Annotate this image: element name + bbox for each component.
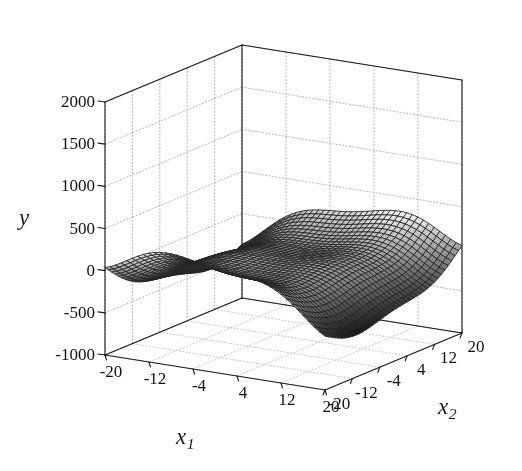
- y-tick-0: 2000: [61, 92, 95, 112]
- x1-axis-label: x1: [176, 424, 195, 453]
- y-tick-4: 0: [87, 261, 96, 281]
- y-tick-2: 1000: [61, 176, 95, 196]
- x2-tick-3: 4: [417, 360, 426, 380]
- y-tick-3: 500: [70, 219, 96, 239]
- x2-tick-4: 12: [440, 348, 457, 368]
- surface-plot-figure: y x1 x2 2000150010005000-500-1000-20-12-…: [0, 0, 522, 471]
- x2-tick-5: 20: [468, 337, 485, 357]
- x2-tick-0: -20: [328, 394, 351, 414]
- x2-axis-label: x2: [438, 394, 457, 423]
- x1-tick-4: 12: [279, 390, 296, 410]
- x1-tick-3: 4: [239, 383, 248, 403]
- x2-tick-1: -12: [355, 383, 378, 403]
- y-axis-label: y: [19, 205, 29, 231]
- x1-tick-1: -12: [144, 369, 167, 389]
- x2-tick-2: -4: [387, 371, 401, 391]
- y-tick-1: 1500: [61, 134, 95, 154]
- x1-tick-0: -20: [100, 362, 123, 382]
- y-tick-5: -500: [64, 303, 95, 323]
- y-tick-6: -1000: [55, 345, 95, 365]
- x1-tick-2: -4: [192, 376, 206, 396]
